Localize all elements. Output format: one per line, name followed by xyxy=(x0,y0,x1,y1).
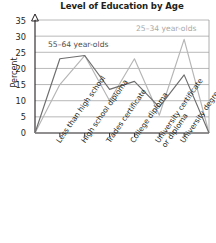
legend-label-25-34: 25–34 year-olds xyxy=(136,24,196,33)
legend-label-55-64: 55–64 year-olds xyxy=(48,40,108,49)
chart-container: Level of Education by Age Percent 35 30 … xyxy=(0,0,216,243)
